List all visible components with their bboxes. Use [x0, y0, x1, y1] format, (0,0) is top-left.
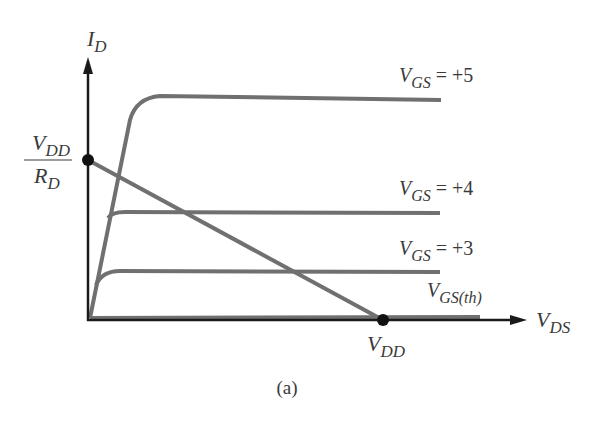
- vdd-label: VDD: [367, 331, 406, 361]
- curve-vgs-3: [96, 271, 440, 285]
- x-axis-label: VDS: [536, 307, 571, 337]
- vdd-point: [377, 314, 389, 326]
- y-axis-arrow-icon: [83, 57, 93, 74]
- curve-label-vgs-5: VGS = +5: [399, 64, 473, 91]
- vdd-over-rd-numerator: VDD: [32, 130, 71, 160]
- mosfet-characteristic-diagram: ID VDD RD VGS = +5 VGS = +4 VGS = +3 VGS…: [0, 0, 592, 421]
- curve-vgs-4: [108, 212, 440, 218]
- curve-vgs-th: [90, 317, 480, 318]
- y-axis-label: ID: [86, 26, 107, 56]
- curve-label-vgs-th: VGS(th): [427, 279, 482, 307]
- load-line: [88, 160, 383, 320]
- x-axis-arrow-icon: [510, 315, 527, 325]
- curve-vgs-5: [90, 96, 441, 318]
- figure-caption: (a): [276, 377, 297, 399]
- curve-label-vgs-4: VGS = +4: [399, 177, 473, 204]
- vdd-over-rd-denominator: RD: [33, 163, 60, 193]
- curve-label-vgs-3: VGS = +3: [399, 237, 473, 264]
- vdd-rd-point: [82, 154, 94, 166]
